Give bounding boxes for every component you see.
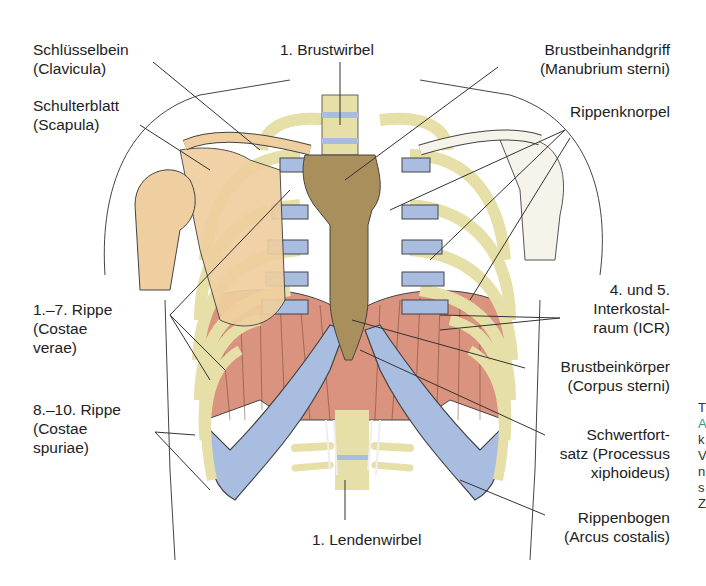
label-costae-spuriae: 8.–10. Rippe (Costae spuriae) (33, 400, 121, 457)
clip-line: V (698, 448, 706, 464)
label-line: (Costae (33, 419, 121, 438)
label-line: (Scapula) (33, 115, 119, 134)
label-line: Interkostal- (593, 299, 670, 318)
clip-line: k (698, 432, 706, 448)
clip-line: A (698, 416, 706, 432)
label-line: 1. Brustwirbel (280, 40, 374, 59)
humerus-right (500, 138, 564, 260)
clip-line: T (698, 400, 706, 416)
label-line: (Clavicula) (33, 59, 129, 78)
label-line: (Corpus sterni) (561, 376, 670, 395)
label-rippenknorpel: Rippenknorpel (570, 102, 670, 121)
label-line: Schlüsselbein (33, 40, 129, 59)
label-line: Rippenbogen (564, 508, 670, 527)
label-clavicula: Schlüsselbein (Clavicula) (33, 40, 129, 78)
label-line: 1. Lendenwirbel (312, 530, 421, 549)
label-line: Rippenknorpel (570, 102, 670, 121)
label-line: 8.–10. Rippe (33, 400, 121, 419)
label-scapula: Schulterblatt (Scapula) (33, 96, 119, 134)
label-icr: 4. und 5. Interkostal- raum (ICR) (593, 280, 670, 337)
label-line: raum (ICR) (593, 318, 670, 337)
label-brustwirbel: 1. Brustwirbel (280, 40, 374, 59)
clip-line: Z (698, 496, 706, 512)
label-line: satz (Processus (560, 444, 670, 463)
label-line: 4. und 5. (593, 280, 670, 299)
clipped-margin-text: T A k V n s Z (698, 400, 706, 580)
label-line: (Manubrium sterni) (540, 59, 670, 78)
label-arcus-costalis: Rippenbogen (Arcus costalis) (564, 508, 670, 546)
label-line: Brustbeinhandgriff (540, 40, 670, 59)
lumbar-vertebra (335, 410, 369, 490)
label-manubrium: Brustbeinhandgriff (Manubrium sterni) (540, 40, 670, 78)
label-line: Schulterblatt (33, 96, 119, 115)
label-xiphoideus: Schwertfort- satz (Processus xiphoideus) (560, 425, 670, 482)
label-line: Schwertfort- (560, 425, 670, 444)
humerus-left (135, 170, 195, 290)
label-line: (Arcus costalis) (564, 527, 670, 546)
label-line: spuriae) (33, 438, 121, 457)
label-lendenwirbel: 1. Lendenwirbel (312, 530, 421, 549)
label-line: xiphoideus) (560, 463, 670, 482)
label-corpus-sterni: Brustbeinkörper (Corpus sterni) (561, 357, 670, 395)
label-line: 1.–7. Rippe (33, 300, 112, 319)
label-line: Brustbeinkörper (561, 357, 670, 376)
clip-line: n (698, 464, 706, 480)
label-line: (Costae (33, 319, 112, 338)
label-costae-verae: 1.–7. Rippe (Costae verae) (33, 300, 112, 357)
clip-line: s (698, 480, 706, 496)
label-line: verae) (33, 338, 112, 357)
